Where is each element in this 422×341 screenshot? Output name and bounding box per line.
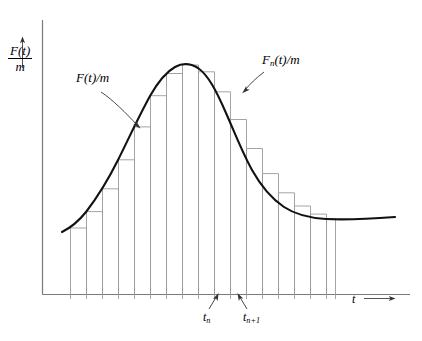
tn-subscript: n [206,316,210,325]
y-axis-label: F(t) m [8,44,32,75]
tn1-tick-label: tn+1 [243,310,260,325]
plot-svg [0,0,422,341]
step-label-base: F [262,52,270,67]
tn1-leader-arrow [237,293,247,309]
figure-container: F(t) m F(t)/m Fn(t)/m tn tn+1 t [0,0,422,341]
axes-group [43,20,411,295]
y-axis-label-denominator: m [8,59,32,74]
x-axis-ticks [71,295,336,300]
y-axis-label-numerator: F(t) [8,44,32,59]
step-function-label: Fn(t)/m [262,52,300,68]
x-axis-label: t [352,292,355,307]
step-label-suffix: (t)/m [274,52,299,67]
smooth-curve-f-t-over-m [62,64,395,232]
tn-leader-arrow [209,293,219,309]
t-axis-arrow-icon [364,296,396,301]
tn1-subscript: n+1 [246,316,260,325]
curve-label-leader-arrow [101,92,141,129]
tn-tick-label: tn [203,310,210,325]
step-label-leader-arrow [242,72,264,93]
curve-label: F(t)/m [76,70,109,86]
